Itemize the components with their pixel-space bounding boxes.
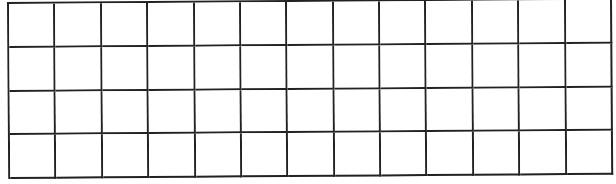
grid-cell-r3-c8 bbox=[334, 89, 381, 133]
grid-cell-r3-c10 bbox=[427, 88, 474, 132]
grid-cell-r3-c12 bbox=[520, 88, 567, 132]
grid-cell-r1-c8 bbox=[334, 1, 381, 45]
grid-cell-r1-c4 bbox=[148, 3, 195, 47]
grid-cell-r1-c12 bbox=[519, 0, 566, 44]
grid-cell-r4-c7 bbox=[288, 133, 335, 177]
grid-cell-r3-c13 bbox=[566, 87, 613, 131]
grid-cell-r1-c2 bbox=[55, 3, 102, 47]
grid-cell-r3-c9 bbox=[381, 89, 428, 133]
grid-cell-r2-c7 bbox=[288, 45, 335, 89]
grid-cell-r4-c6 bbox=[242, 133, 289, 177]
grid-cell-r4-c2 bbox=[56, 135, 103, 179]
grid-cell-r1-c11 bbox=[473, 0, 520, 44]
grid-cell-r1-c3 bbox=[102, 3, 149, 47]
grid-cell-r2-c6 bbox=[241, 46, 288, 90]
grid-cell-r2-c1 bbox=[9, 47, 56, 91]
grid-cell-r3-c3 bbox=[102, 91, 149, 135]
grid-cell-r2-c3 bbox=[102, 47, 149, 91]
canvas bbox=[0, 0, 616, 184]
grid-cell-r4-c11 bbox=[474, 132, 521, 176]
grid-cell-r4-c1 bbox=[10, 135, 57, 179]
grid-cell-r4-c12 bbox=[520, 131, 567, 175]
grid-cell-r4-c9 bbox=[381, 132, 428, 176]
grid-cell-r2-c8 bbox=[334, 45, 381, 89]
grid-cell-r2-c9 bbox=[380, 45, 427, 89]
grid-cell-r4-c10 bbox=[427, 132, 474, 176]
empty-grid-table bbox=[7, 0, 613, 179]
grid-cell-r1-c1 bbox=[9, 4, 56, 48]
grid-cell-r2-c10 bbox=[427, 44, 474, 88]
grid-cell-r4-c5 bbox=[195, 134, 242, 178]
grid-cell-r1-c9 bbox=[380, 1, 427, 45]
grid-cell-r4-c4 bbox=[149, 134, 196, 178]
grid-cell-r3-c6 bbox=[242, 90, 289, 134]
grid-cell-r2-c2 bbox=[56, 47, 103, 91]
grid-cell-r4-c13 bbox=[567, 131, 614, 175]
grid-cell-r1-c7 bbox=[287, 2, 334, 46]
grid-cell-r2-c12 bbox=[520, 44, 567, 88]
grid-cell-r4-c8 bbox=[335, 133, 382, 177]
grid-cell-r3-c7 bbox=[288, 89, 335, 133]
grid-cell-r3-c1 bbox=[10, 91, 57, 135]
grid-cell-r2-c5 bbox=[195, 46, 242, 90]
grid-cell-r1-c5 bbox=[195, 2, 242, 46]
grid-cell-r2-c4 bbox=[148, 46, 195, 90]
grid-cell-r3-c5 bbox=[195, 90, 242, 134]
grid-cell-r2-c11 bbox=[473, 44, 520, 88]
grid-cell-r3-c2 bbox=[56, 91, 103, 135]
grid-cell-r2-c13 bbox=[566, 44, 613, 88]
grid-cell-r1-c10 bbox=[426, 1, 473, 45]
grid-cell-r1-c13 bbox=[566, 0, 613, 44]
grid-cell-r3-c4 bbox=[149, 90, 196, 134]
grid-cell-r4-c3 bbox=[103, 134, 150, 178]
grid-cell-r3-c11 bbox=[473, 88, 520, 132]
grid-cell-r1-c6 bbox=[241, 2, 288, 46]
